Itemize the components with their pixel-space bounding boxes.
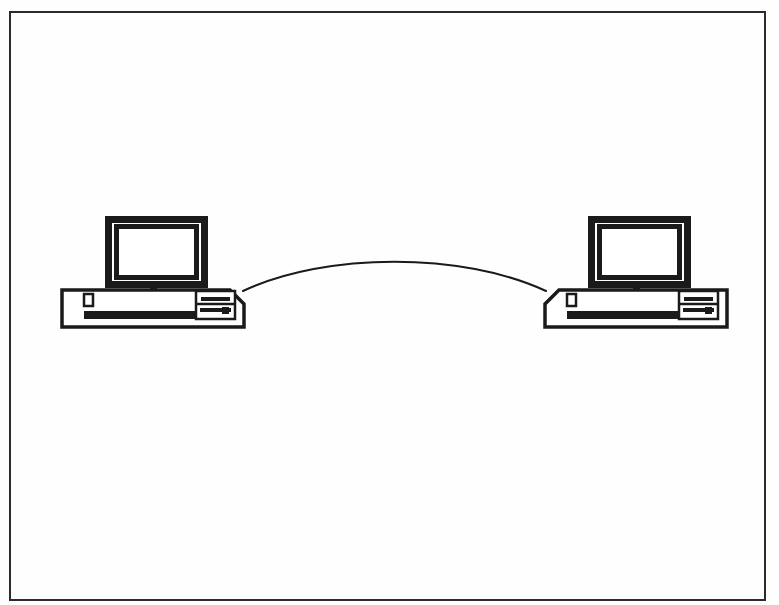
- monitor-screen[interactable]: [119, 229, 194, 275]
- diagram-svg: [0, 0, 779, 605]
- power-button[interactable]: [567, 294, 576, 306]
- drive-slot-wide: [567, 311, 689, 319]
- drive-bay-slot-upper: [201, 297, 230, 301]
- drive-slot-wide: [84, 311, 206, 319]
- drive-eject-button[interactable]: [705, 307, 712, 314]
- figure-canvas: [0, 0, 779, 605]
- monitor-screen[interactable]: [602, 229, 677, 275]
- drive-eject-button[interactable]: [222, 307, 229, 314]
- power-button[interactable]: [84, 294, 93, 306]
- drive-bay-slot-upper: [684, 297, 713, 301]
